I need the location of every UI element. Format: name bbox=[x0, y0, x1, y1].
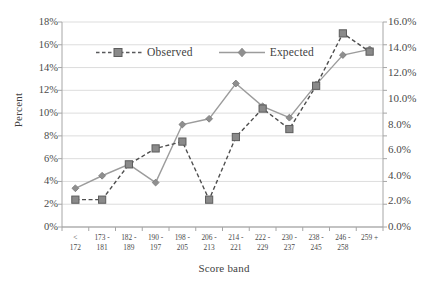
observed-line-key-icon bbox=[96, 47, 142, 58]
y-axis-left-tick-label: 10% bbox=[14, 108, 58, 118]
legend-item-expected[interactable]: Expected bbox=[219, 46, 314, 58]
y-axis-right-tick-label: 0.0% bbox=[388, 221, 444, 231]
x-axis-tick-label: 259 + bbox=[353, 233, 387, 243]
y-axis-left-tick-label: 4% bbox=[14, 176, 58, 186]
y-axis-right-tick-label: 6.0% bbox=[388, 144, 444, 154]
y-axis-left-tick-label: 8% bbox=[14, 131, 58, 141]
y-axis-left-tick-label: 16% bbox=[14, 40, 58, 50]
expected-line-key-icon bbox=[219, 47, 265, 58]
chart-legend: Observed Expected bbox=[96, 46, 314, 58]
x-axis-tick-line: 259 + bbox=[353, 233, 387, 243]
y-axis-left-tick-label: 14% bbox=[14, 63, 58, 73]
y-axis-left-tick-label: 2% bbox=[14, 199, 58, 209]
y-axis-right-tick-label: 4.0% bbox=[388, 170, 444, 180]
y-axis-right-tick-label: 10.0% bbox=[388, 93, 444, 103]
legend-item-observed[interactable]: Observed bbox=[96, 46, 193, 58]
y-axis-right-tick-label: 16.0% bbox=[388, 16, 444, 26]
y-axis-right-tick-label: 8.0% bbox=[388, 119, 444, 129]
y-axis-left-tick-label: 6% bbox=[14, 154, 58, 164]
chart-container: Percent 0%2%4%6%8%10%12%14%16%18% 0.0%2.… bbox=[0, 0, 448, 290]
y-axis-left-tick-label: 18% bbox=[14, 17, 58, 27]
y-axis-left-tick-label: 0% bbox=[14, 222, 58, 232]
y-axis-left-tick-label: 12% bbox=[14, 85, 58, 95]
x-axis-tick-line: 258 bbox=[326, 243, 360, 253]
x-axis-title: Score band bbox=[0, 262, 448, 274]
y-axis-right-tick-label: 12.0% bbox=[388, 67, 444, 77]
y-axis-right-tick-label: 2.0% bbox=[388, 195, 444, 205]
y-axis-right-tick-label: 14.0% bbox=[388, 42, 444, 52]
legend-label-expected: Expected bbox=[270, 46, 314, 58]
legend-label-observed: Observed bbox=[147, 46, 193, 58]
